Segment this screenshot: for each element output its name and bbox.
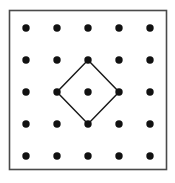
lattice-dot — [146, 88, 153, 95]
lattice-dot — [22, 24, 29, 31]
lattice-dot — [53, 152, 60, 159]
lattice-dot — [146, 56, 153, 63]
lattice-dot — [115, 120, 122, 127]
lattice-dot — [53, 56, 60, 63]
lattice-dot — [115, 24, 122, 31]
lattice-dot — [84, 24, 91, 31]
lattice-dot — [146, 120, 153, 127]
lattice-dot — [22, 152, 29, 159]
lattice-dot — [84, 88, 91, 95]
lattice-dot — [115, 88, 122, 95]
lattice-dot — [22, 56, 29, 63]
lattice-dot — [22, 88, 29, 95]
lattice-dot — [115, 152, 122, 159]
lattice-dot — [84, 120, 91, 127]
lattice-dot — [53, 24, 60, 31]
lattice-dot — [53, 88, 60, 95]
dot-lattice-figure: Square dot lattice with inscribed tilted… — [0, 0, 175, 183]
lattice-dot — [22, 120, 29, 127]
lattice-dot — [146, 152, 153, 159]
lattice-dot — [53, 120, 60, 127]
lattice-dot — [146, 24, 153, 31]
lattice-dot — [115, 56, 122, 63]
lattice-dot — [84, 152, 91, 159]
geometry-canvas — [0, 0, 175, 183]
lattice-dot — [84, 56, 91, 63]
